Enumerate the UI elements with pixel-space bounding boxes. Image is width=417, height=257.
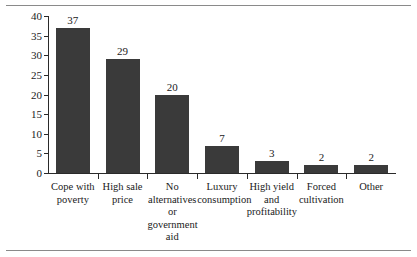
x-category-label-line: Other	[346, 181, 396, 194]
x-category-label-line: government	[147, 219, 197, 232]
y-tick-mark	[44, 153, 48, 154]
x-category-label: Noalternativesorgovernmentaid	[147, 181, 197, 244]
x-tick-mark	[197, 174, 198, 179]
bar	[205, 146, 239, 173]
bar-value-label: 2	[341, 151, 401, 163]
y-tick-label: 40	[31, 11, 42, 22]
bar-value-label: 29	[93, 45, 153, 57]
x-category-label-line: Forced	[297, 181, 347, 194]
top-divider-rule	[6, 5, 411, 6]
plot-area: 0510152025303540 3729207322	[48, 16, 396, 174]
x-category-label-line: alternatives	[147, 194, 197, 207]
y-tick-mark	[44, 134, 48, 135]
x-category-label-line: High yield	[247, 181, 297, 194]
x-category-label: High yieldandprofitability	[247, 181, 297, 219]
x-tick-mark	[297, 174, 298, 179]
bar-value-label: 20	[142, 81, 202, 93]
y-tick-label: 35	[31, 30, 42, 41]
x-tick-mark	[346, 174, 347, 179]
x-category-label-line: and	[247, 194, 297, 207]
x-tick-mark	[98, 174, 99, 179]
x-category-label-line: price	[98, 194, 148, 207]
bottom-divider-rule	[6, 250, 411, 251]
y-tick-label: 5	[37, 148, 43, 159]
x-category-label-line: aid	[147, 231, 197, 244]
x-category-label: Luxuryconsumption	[197, 181, 247, 206]
y-tick-mark	[44, 114, 48, 115]
bar	[155, 95, 189, 174]
x-category-label: High saleprice	[98, 181, 148, 206]
y-tick-label: 25	[31, 69, 42, 80]
x-tick-mark	[147, 174, 148, 179]
y-tick-mark	[44, 95, 48, 96]
y-tick-mark	[44, 55, 48, 56]
x-axis-line	[48, 173, 396, 174]
bar	[255, 161, 289, 173]
x-category-label-line: profitability	[247, 206, 297, 219]
x-category-label-line: Cope with	[48, 181, 98, 194]
y-tick-label: 15	[31, 109, 42, 120]
y-tick-label: 10	[31, 128, 42, 139]
x-category-label-line: or	[147, 206, 197, 219]
x-category-label: Other	[346, 181, 396, 194]
x-category-label-line: Luxury	[197, 181, 247, 194]
y-tick-mark	[44, 75, 48, 76]
chart-figure: % poppy farmers interviewed 051015202530…	[0, 0, 417, 257]
y-tick-label: 30	[31, 50, 42, 61]
x-category-label-line: cultivation	[297, 194, 347, 207]
bar	[304, 165, 338, 173]
bar	[56, 28, 90, 173]
x-category-label-line: consumption	[197, 194, 247, 207]
x-category-label-line: High sale	[98, 181, 148, 194]
x-category-label: Cope withpoverty	[48, 181, 98, 206]
x-tick-mark	[247, 174, 248, 179]
bar-value-label: 37	[43, 14, 103, 26]
x-category-label: Forcedcultivation	[297, 181, 347, 206]
y-tick-mark	[44, 36, 48, 37]
y-tick-label: 0	[37, 168, 43, 179]
x-category-label-line: No	[147, 181, 197, 194]
x-category-label-line: poverty	[48, 194, 98, 207]
y-axis-line	[48, 16, 49, 174]
bar	[106, 59, 140, 173]
bar-value-label: 7	[192, 132, 252, 144]
y-tick-label: 20	[31, 89, 42, 100]
y-tick-mark	[44, 173, 48, 174]
bar	[354, 165, 388, 173]
